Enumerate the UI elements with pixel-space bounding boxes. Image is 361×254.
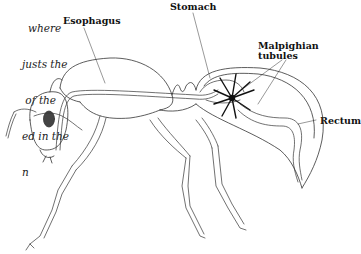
rectum	[238, 104, 302, 182]
middle-leg	[150, 118, 205, 238]
thorax-outline	[50, 58, 173, 118]
front-leg	[26, 116, 106, 250]
gaster-outline	[196, 68, 323, 188]
antenna	[6, 109, 82, 138]
hind-leg	[196, 118, 246, 230]
esophagus	[56, 90, 218, 150]
petiole-outline	[160, 83, 196, 112]
